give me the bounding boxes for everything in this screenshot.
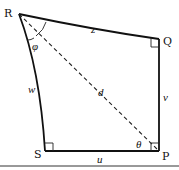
angle-label-theta: θ xyxy=(136,138,142,150)
right-angle-s-icon xyxy=(45,143,53,151)
vertex-label-s: S xyxy=(34,148,42,161)
spherical-quadrilateral-diagram: R Q P S z v u w d φ θ xyxy=(0,0,179,170)
side-label-w: w xyxy=(28,83,36,95)
diagonal-label-d: d xyxy=(98,86,104,98)
diagonal-d xyxy=(19,14,159,151)
side-label-v: v xyxy=(163,91,168,103)
side-label-u: u xyxy=(97,153,103,165)
vertex-label-r: R xyxy=(4,7,13,20)
vertex-label-q: Q xyxy=(163,35,172,48)
side-label-z: z xyxy=(90,23,96,35)
angle-phi-arc xyxy=(36,22,46,36)
angle-label-phi: φ xyxy=(32,40,38,52)
vertex-label-p: P xyxy=(162,150,170,163)
